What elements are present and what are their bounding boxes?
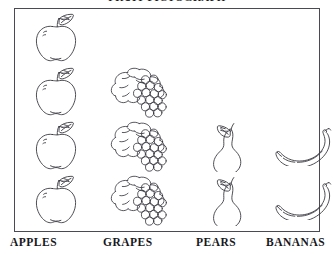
picto-column-pears: [187, 9, 267, 231]
pear-icon: [201, 174, 253, 226]
pictogram-grid: [15, 9, 319, 231]
picto-unit-grapes: [103, 173, 183, 227]
category-axis-labels: APPLESGRAPESPEARSBANANAS: [0, 236, 334, 252]
picto-unit-apples: [19, 11, 99, 65]
banana-icon: [272, 180, 334, 220]
pear-icon: [201, 120, 253, 172]
picto-unit-bananas: [263, 119, 334, 173]
category-label-grapes: GRAPES: [103, 236, 153, 248]
apple-icon: [30, 13, 88, 63]
grapes-icon: [108, 66, 178, 118]
category-label-bananas: BANANAS: [266, 236, 325, 248]
picto-unit-bananas: [263, 173, 334, 227]
apple-icon: [30, 121, 88, 171]
picto-unit-grapes: [103, 65, 183, 119]
category-label-pears: PEARS: [196, 236, 236, 248]
picto-unit-pears: [187, 173, 267, 227]
picto-unit-apples: [19, 65, 99, 119]
chart-plot-frame: [14, 8, 320, 232]
page-title: FRUIT PICTOGRAPH: [0, 0, 334, 3]
apple-icon: [30, 67, 88, 117]
picto-unit-grapes: [103, 119, 183, 173]
picto-unit-apples: [19, 173, 99, 227]
grapes-icon: [108, 174, 178, 226]
category-label-apples: APPLES: [10, 236, 57, 248]
grapes-icon: [108, 120, 178, 172]
apple-icon: [30, 175, 88, 225]
picto-column-apples: [19, 9, 99, 231]
picto-unit-apples: [19, 119, 99, 173]
picto-column-bananas: [263, 9, 334, 231]
picto-column-grapes: [103, 9, 183, 231]
picto-unit-pears: [187, 119, 267, 173]
banana-icon: [272, 126, 334, 166]
